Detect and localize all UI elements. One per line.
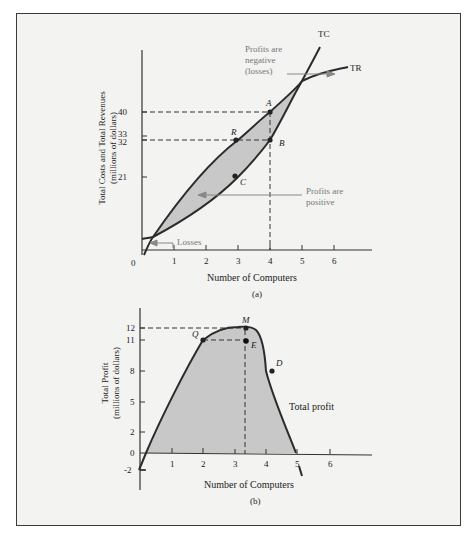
point-m bbox=[243, 325, 248, 330]
x-tick-b-4: 4 bbox=[264, 460, 269, 469]
x-tick-b-5: 5 bbox=[295, 460, 300, 469]
profit-area-shade bbox=[146, 327, 296, 453]
y-tick-40: 40 bbox=[118, 108, 127, 117]
annotation-positive-profits: Profits are positive bbox=[306, 186, 343, 208]
y-tick-b-11: 11 bbox=[126, 336, 135, 345]
point-m-label: M bbox=[242, 316, 250, 325]
point-a-label: A bbox=[266, 99, 272, 108]
tc-curve bbox=[142, 47, 320, 239]
y-tick-32: 32 bbox=[118, 138, 127, 147]
x-axis-label-a: Number of Computers bbox=[207, 273, 297, 283]
y-tick-b-8: 8 bbox=[130, 367, 135, 376]
x-tick-b-6: 6 bbox=[328, 460, 333, 469]
y-axis-label-a-line1: Total Costs and Total Revenues bbox=[98, 73, 107, 223]
point-c bbox=[232, 173, 237, 178]
x-tick-b-1: 1 bbox=[170, 460, 175, 469]
x-axis-label-b: Number of Computers bbox=[204, 480, 294, 490]
x-tick-a-5: 5 bbox=[300, 257, 305, 266]
y-axis-label-b: Total Profit (millions of dollars) bbox=[101, 328, 121, 438]
y-axis-label-b-line1: Total Profit bbox=[101, 328, 110, 438]
point-c-label: C bbox=[240, 178, 246, 187]
point-d-label: D bbox=[276, 359, 283, 368]
x-tick-a-1: 1 bbox=[172, 257, 177, 266]
annotation-losses: Losses bbox=[177, 238, 202, 247]
point-e-label: E bbox=[251, 341, 257, 350]
point-d bbox=[269, 368, 274, 373]
tc-label: TC bbox=[318, 30, 330, 39]
y-tick-b-5: 5 bbox=[130, 398, 135, 407]
x-tick-a-3: 3 bbox=[236, 257, 241, 266]
annotation-negative-profits: Profits are negative (losses) bbox=[245, 44, 282, 77]
point-r-label: R bbox=[231, 128, 237, 137]
point-q-label: Q bbox=[192, 330, 199, 339]
y-axis-label-a-line2: (millions of dollars) bbox=[109, 73, 118, 223]
x-tick-a-0: 0 bbox=[131, 259, 136, 268]
x-tick-a-6: 6 bbox=[332, 257, 337, 266]
point-a bbox=[267, 109, 272, 114]
annotation-negative-line2: negative bbox=[245, 55, 282, 66]
panel-label-b: (b) bbox=[250, 497, 261, 506]
point-e bbox=[243, 338, 249, 344]
y-tick-b-2: 2 bbox=[130, 428, 135, 437]
y-tick-b-neg2: -2 bbox=[124, 466, 132, 475]
point-b-label: B bbox=[279, 139, 285, 148]
y-ticks-b bbox=[140, 328, 145, 470]
x-tick-a-4: 4 bbox=[268, 257, 273, 266]
annotation-negative-line1: Profits are bbox=[245, 44, 282, 55]
y-tick-21: 21 bbox=[118, 173, 127, 182]
y-axis-label-a: Total Costs and Total Revenues (millions… bbox=[98, 73, 118, 223]
y-tick-b-12: 12 bbox=[126, 324, 135, 333]
annotation-positive-line1: Profits are bbox=[306, 186, 343, 197]
y-ticks-a bbox=[142, 112, 147, 177]
x-tick-b-3: 3 bbox=[233, 460, 238, 469]
tr-label: TR bbox=[350, 64, 362, 73]
point-r bbox=[233, 137, 238, 142]
panel-a bbox=[142, 47, 372, 255]
total-profit-label: Total profit bbox=[289, 402, 334, 412]
point-q bbox=[200, 337, 205, 342]
x-tick-b-2: 2 bbox=[201, 460, 206, 469]
y-axis-label-b-line2: (millions of dollars) bbox=[112, 328, 121, 438]
x-tick-a-2: 2 bbox=[204, 257, 209, 266]
panel-label-a: (a) bbox=[252, 290, 262, 299]
point-b bbox=[267, 137, 272, 142]
y-tick-b-0: 0 bbox=[130, 449, 135, 458]
x-axis-b bbox=[140, 453, 372, 455]
annotation-negative-line3: (losses) bbox=[245, 66, 282, 77]
annotation-positive-line2: positive bbox=[306, 197, 343, 208]
